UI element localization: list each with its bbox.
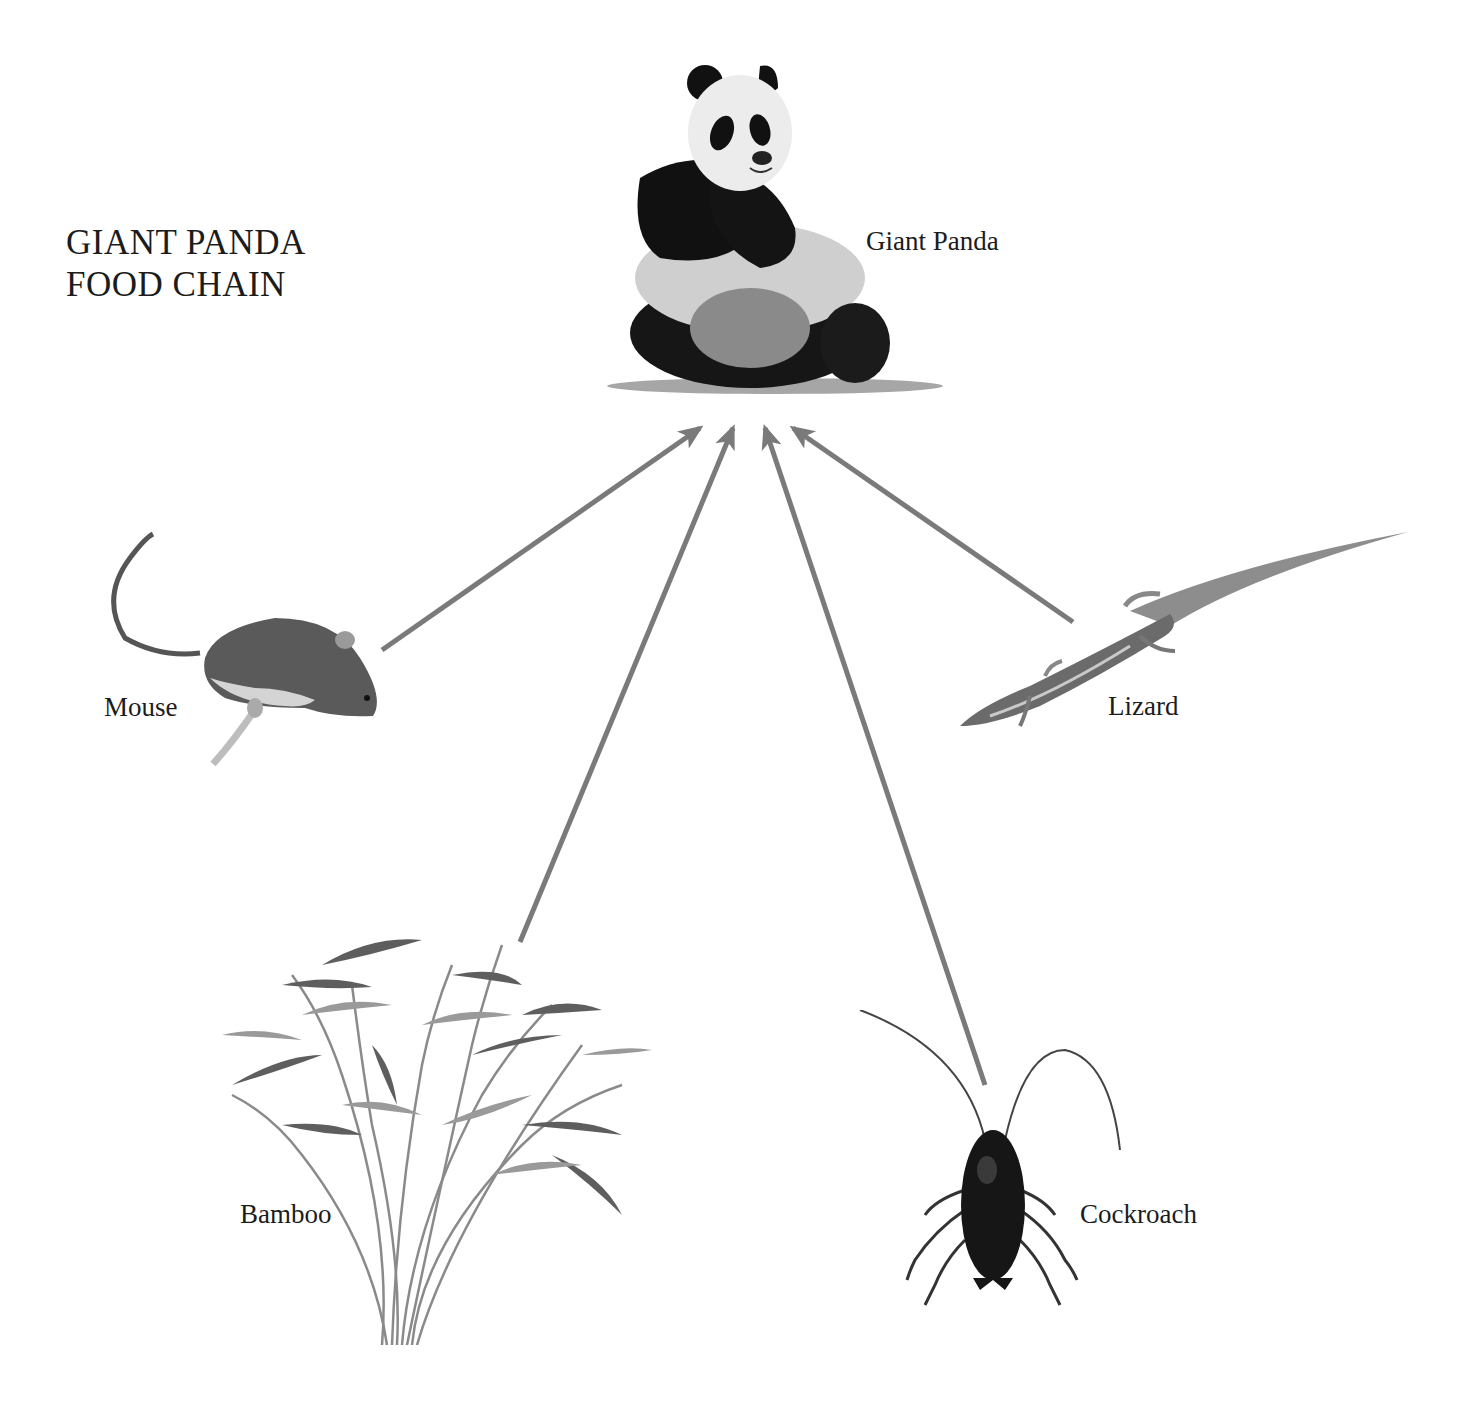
arrow-bamboo-to-panda xyxy=(520,428,733,942)
label-cockroach: Cockroach xyxy=(1080,1199,1197,1230)
label-mouse: Mouse xyxy=(104,692,178,723)
cockroach-icon xyxy=(855,1010,1135,1310)
lizard-icon xyxy=(950,526,1415,736)
bamboo-icon xyxy=(222,925,652,1365)
label-lizard: Lizard xyxy=(1108,691,1178,722)
mouse-icon xyxy=(105,528,390,768)
label-giant-panda: Giant Panda xyxy=(866,226,999,257)
label-bamboo: Bamboo xyxy=(240,1199,332,1230)
